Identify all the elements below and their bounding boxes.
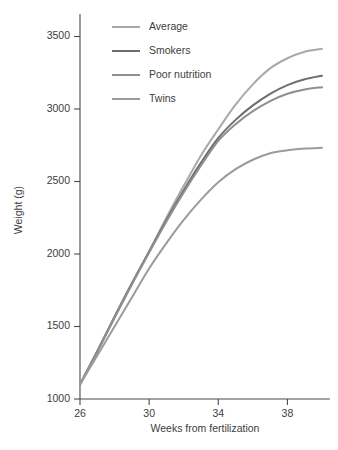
x-axis-title: Weeks from fertilization: [151, 422, 260, 434]
x-tick-label: 38: [282, 407, 294, 419]
y-tick-label: 2000: [47, 247, 71, 259]
fetal-growth-chart: 100015002000250030003500 26303438 Averag…: [0, 0, 338, 450]
series-line-poor-nutrition: [80, 87, 322, 384]
y-tick-label: 2500: [47, 174, 71, 186]
y-tick-label: 3500: [47, 29, 71, 41]
series-line-smokers: [80, 76, 322, 385]
y-axis-tick-group: 100015002000250030003500: [47, 29, 80, 404]
series-line-twins: [80, 148, 322, 385]
x-axis-tick-group: 26303438: [74, 399, 293, 419]
legend-label-twins: Twins: [149, 92, 176, 104]
legend-label-poor-nutrition: Poor nutrition: [149, 68, 212, 80]
x-tick-label: 26: [74, 407, 86, 419]
x-tick-label: 34: [212, 407, 224, 419]
y-tick-label: 3000: [47, 102, 71, 114]
x-tick-label: 30: [143, 407, 155, 419]
y-axis-title: Weight (g): [12, 186, 24, 234]
chart-legend: AverageSmokersPoor nutritionTwins: [112, 20, 212, 104]
y-tick-label: 1500: [47, 319, 71, 331]
legend-label-smokers: Smokers: [149, 44, 190, 56]
y-tick-label: 1000: [47, 392, 71, 404]
legend-label-average: Average: [149, 20, 188, 32]
chart-svg: 100015002000250030003500 26303438 Averag…: [0, 0, 338, 450]
